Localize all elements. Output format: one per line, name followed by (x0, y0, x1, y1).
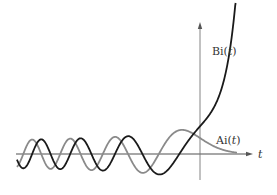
ai-label: Ai(t) (215, 134, 240, 147)
airy-function-plot: t Bi(t) Ai(t) (0, 0, 277, 195)
t-axis-arrow-icon (246, 152, 253, 156)
t-axis-label: t (258, 148, 263, 161)
bi-label: Bi(t) (212, 45, 237, 58)
y-axis-arrow-icon (198, 22, 202, 29)
